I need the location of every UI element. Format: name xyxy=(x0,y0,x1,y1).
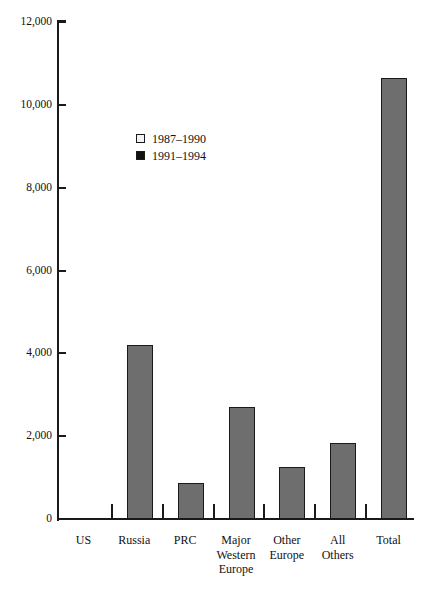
y-axis-tick-label: 0 xyxy=(0,513,52,525)
y-axis-tick-label: 2,000 xyxy=(0,430,52,442)
y-axis-tick xyxy=(58,435,66,437)
legend-swatch-icon xyxy=(136,134,145,143)
x-axis-tick xyxy=(162,504,164,519)
bar xyxy=(127,345,153,519)
x-axis-label: Total xyxy=(355,533,422,548)
x-axis-tick xyxy=(213,504,215,519)
y-axis-tick-label: 10,000 xyxy=(0,99,52,111)
y-axis-tick xyxy=(58,352,66,354)
x-axis-label-line: Total xyxy=(355,533,422,548)
x-axis-tick xyxy=(365,504,367,519)
x-axis-label-line: Others xyxy=(304,548,371,563)
chart-legend: 1987–19901991–1994 xyxy=(136,131,206,165)
y-axis-tick xyxy=(58,270,66,272)
x-axis-label-line: Europe xyxy=(203,562,270,577)
legend-item: 1987–1990 xyxy=(136,131,206,146)
bar xyxy=(279,467,305,519)
bar xyxy=(330,443,356,519)
y-axis-tick xyxy=(58,104,66,106)
y-axis-tick-label: 12,000 xyxy=(0,16,52,28)
bar-chart: 02,0004,0006,0008,00010,00012,000 USRuss… xyxy=(0,0,424,590)
x-axis-tick xyxy=(111,504,113,519)
y-axis-tick-label: 6,000 xyxy=(0,265,52,277)
x-axis-tick xyxy=(263,504,265,519)
bar xyxy=(229,407,255,519)
y-axis-tick xyxy=(58,21,66,23)
legend-swatch-icon xyxy=(136,151,145,160)
y-axis-tick xyxy=(58,187,66,189)
bar xyxy=(381,78,407,519)
y-axis-tick-label: 4,000 xyxy=(0,347,52,359)
x-axis-tick xyxy=(314,504,316,519)
y-axis-tick-label: 8,000 xyxy=(0,182,52,194)
legend-label: 1987–1990 xyxy=(152,133,206,145)
legend-label: 1991–1994 xyxy=(152,150,206,162)
bar xyxy=(178,483,204,519)
legend-item: 1991–1994 xyxy=(136,148,206,163)
